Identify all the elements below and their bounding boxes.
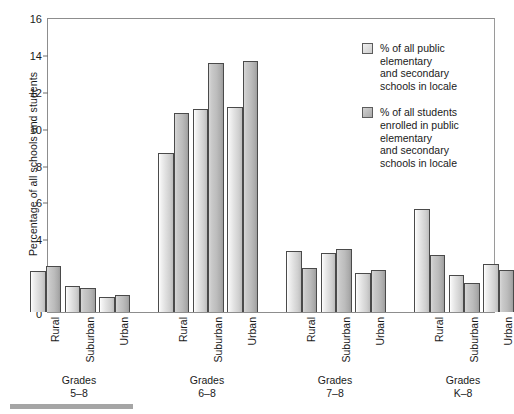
legend-label: % of all students enrolled in public ele… [380, 106, 459, 169]
x-category-label: Urban [118, 317, 130, 346]
x-category-label: Suburban [340, 317, 352, 363]
x-category-label: Urban [502, 317, 514, 346]
bar [302, 268, 318, 312]
x-group-label: Grades 7–8 [267, 374, 403, 399]
bar [414, 209, 430, 312]
y-tick-label: 8 [36, 161, 42, 173]
bar [483, 264, 499, 312]
legend-swatch-icon [362, 107, 373, 118]
legend: % of all public elementary and secondary… [362, 42, 492, 183]
bar [243, 61, 259, 312]
x-category-label: Suburban [468, 317, 480, 363]
y-tick-label: 16 [30, 13, 42, 25]
x-group-label: Grades 5–8 [11, 374, 147, 399]
bar-chart: Percentage of all schools and students 0… [0, 0, 514, 414]
x-category-label: Urban [246, 317, 258, 346]
y-tick-label: 12 [30, 87, 42, 99]
y-tick-label: 14 [30, 50, 42, 62]
bar [46, 266, 62, 312]
x-group-label: Grades 6–8 [139, 374, 275, 399]
bar [99, 297, 115, 312]
bar [193, 109, 209, 312]
bar [430, 255, 446, 312]
x-category-label: Suburban [84, 317, 96, 363]
bar [115, 295, 131, 312]
bar [80, 288, 96, 312]
bar [30, 271, 46, 312]
bar [499, 270, 514, 312]
y-tick-label: 6 [36, 197, 42, 209]
legend-item: % of all students enrolled in public ele… [362, 106, 492, 169]
bar [371, 270, 387, 312]
y-tick-label: 10 [30, 124, 42, 136]
legend-swatch-icon [362, 43, 373, 54]
bar [449, 275, 465, 312]
bottom-rule [10, 404, 133, 409]
x-category-label: Rural [177, 317, 189, 342]
legend-item: % of all public elementary and secondary… [362, 42, 492, 92]
y-tick-label: 4 [36, 234, 42, 246]
bar [208, 63, 224, 312]
bar [158, 153, 174, 312]
x-group-label: Grades K–8 [395, 374, 514, 399]
bar [286, 251, 302, 312]
x-category-label: Urban [374, 317, 386, 346]
x-category-label: Rural [433, 317, 445, 342]
bar [227, 107, 243, 312]
bar [336, 249, 352, 312]
bar [355, 273, 371, 312]
legend-label: % of all public elementary and secondary… [380, 42, 457, 92]
bar [65, 286, 81, 312]
x-category-label: Rural [49, 317, 61, 342]
x-category-label: Rural [305, 317, 317, 342]
bar [464, 283, 480, 313]
bar [321, 253, 337, 312]
bar [174, 113, 190, 312]
x-category-label: Suburban [212, 317, 224, 363]
